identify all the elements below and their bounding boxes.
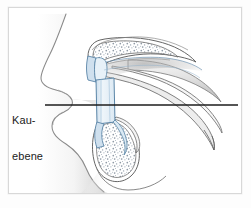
- occlusal-plane-label: Kau- ebene: [12, 90, 60, 186]
- occlusal-plane-label-line2: ebene: [12, 150, 60, 162]
- occlusal-plane-label-line1: Kau-: [12, 114, 60, 126]
- mandible-cross-section: [92, 117, 166, 190]
- anatomical-figure: Kau- ebene: [0, 0, 251, 208]
